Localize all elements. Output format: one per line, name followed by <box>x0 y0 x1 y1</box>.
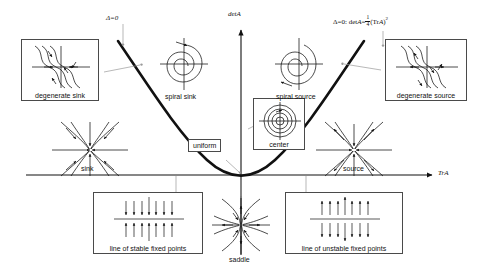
label-uniform: uniform <box>188 139 221 152</box>
leader-degenerate-sink <box>104 65 140 72</box>
label-spiral-sink: spiral sink <box>165 93 196 100</box>
leader-degenerate-source <box>344 64 381 70</box>
delta-right-exponent: 2 <box>386 16 389 21</box>
delta-zero-left-text: Δ=0 <box>106 14 118 22</box>
leader-dot-uniform <box>239 172 241 174</box>
label-source: source <box>343 165 364 172</box>
leader-dot-left <box>122 43 124 45</box>
delta-zero-left-label: Δ=0 <box>106 14 118 22</box>
leader-dot-degsource <box>341 63 343 65</box>
trace-determinant-diagram: degenerate sink degenerate source <box>0 0 482 268</box>
panel-caption: degenerate sink <box>22 92 98 99</box>
x-axis-label: TrA <box>438 169 449 177</box>
panel-line-of-stable-fixed-points: line of stable fixed points <box>93 192 203 254</box>
leader-dot-right <box>382 44 384 46</box>
panel-caption: line of unstable fixed points <box>286 245 402 252</box>
delta-right-tail: (Tr <box>370 18 379 26</box>
y-axis-label: detA <box>228 10 241 18</box>
panel-caption: line of stable fixed points <box>94 245 202 252</box>
leader-dot-degsink <box>140 63 142 65</box>
leader-uniform <box>226 160 239 172</box>
delta-right-prefix: Δ=0: det <box>333 18 357 26</box>
panel-caption: center <box>254 141 304 148</box>
label-spiral-source: spiral source <box>276 93 316 100</box>
spiral-source-portrait <box>275 38 323 90</box>
delta-zero-right-label: Δ=0: detA=14(TrA)2 <box>333 15 388 27</box>
spiral-sink-portrait <box>160 38 208 90</box>
panel-caption: degenerate source <box>386 92 466 99</box>
panel-center: center <box>253 98 305 150</box>
saddle-portrait <box>212 198 270 254</box>
panel-degenerate-source: degenerate source <box>385 39 467 101</box>
panel-line-of-unstable-fixed-points: line of unstable fixed points <box>285 192 403 254</box>
label-saddle: saddle <box>229 256 250 263</box>
label-sink: sink <box>81 165 93 172</box>
panel-degenerate-sink: degenerate sink <box>21 39 99 101</box>
